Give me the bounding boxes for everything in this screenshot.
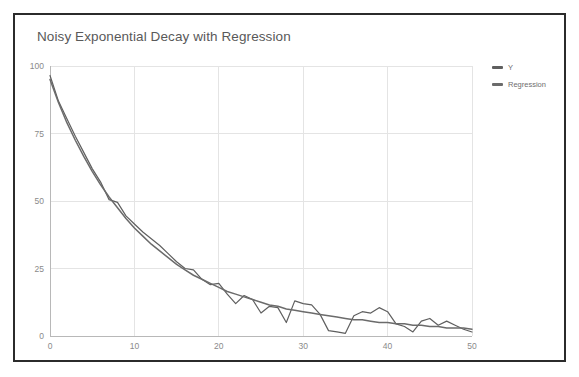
legend-label-regression: Regression [508,80,546,89]
legend-swatch-y [492,66,503,69]
y-tick-label-50: 50 [35,196,45,206]
chart-legend: Y Regression [492,62,562,96]
x-tick-label-0: 0 [48,341,53,351]
legend-item-regression[interactable]: Regression [492,79,562,89]
x-tick-label-40: 40 [383,341,393,351]
line-chart-svg: 025507510001020304050 [15,15,568,364]
y-tick-label-0: 0 [39,331,44,341]
legend-label-y: Y [508,63,513,72]
x-tick-label-20: 20 [214,341,224,351]
y-tick-label-25: 25 [35,264,45,274]
series-path-regression [50,80,472,330]
x-tick-label-10: 10 [130,341,140,351]
y-tick-label-75: 75 [35,129,45,139]
plot-area: 025507510001020304050 [15,15,568,364]
x-tick-label-50: 50 [467,341,477,351]
legend-swatch-regression [492,83,503,86]
series-path-y [50,75,472,333]
legend-item-y[interactable]: Y [492,62,562,72]
chart-card: Noisy Exponential Decay with Regression … [13,13,566,362]
y-tick-label-100: 100 [30,61,44,71]
x-tick-label-30: 30 [298,341,308,351]
